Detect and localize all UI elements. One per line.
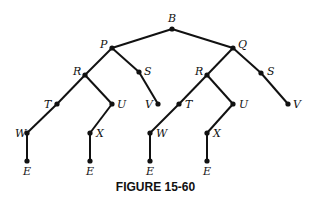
- node-label: U: [117, 98, 127, 111]
- node-label: T: [185, 98, 194, 111]
- tree-edge: [85, 48, 112, 75]
- tree-edge: [57, 75, 85, 104]
- tree-edge: [27, 104, 57, 133]
- tree-node-e: [147, 158, 152, 163]
- node-label: P: [99, 38, 108, 51]
- tree-edge: [179, 75, 207, 104]
- tree-labels: BPQRSRSTUVTUVWXWXEEEE: [15, 12, 302, 178]
- tree-node-s: [258, 70, 263, 75]
- tree-edge: [85, 75, 112, 104]
- tree-node-p: [109, 45, 114, 50]
- tree-node-e: [204, 158, 209, 163]
- tree-node-r: [82, 72, 87, 77]
- node-label: U: [239, 98, 249, 111]
- node-label: E: [22, 165, 31, 178]
- node-label: W: [15, 127, 28, 140]
- tree-node-u: [230, 101, 235, 106]
- figure-caption: FIGURE 15-60: [0, 180, 311, 194]
- tree-edge: [207, 75, 233, 104]
- tree-node-t: [54, 101, 59, 106]
- tree-node-u: [109, 101, 114, 106]
- tree-node-v: [285, 101, 290, 106]
- tree-node-r: [204, 72, 209, 77]
- tree-node-s: [136, 69, 141, 74]
- tree-edges: [27, 29, 288, 161]
- tree-node-x: [204, 130, 209, 135]
- node-label: R: [72, 65, 81, 78]
- tree-node-t: [176, 101, 181, 106]
- tree-node-w: [147, 130, 152, 135]
- tree-edge: [207, 48, 233, 75]
- tree-edge: [112, 29, 172, 48]
- node-label: V: [145, 98, 154, 111]
- node-label: W: [156, 127, 169, 140]
- tree-diagram: BPQRSRSTUVTUVWXWXEEEE: [0, 0, 311, 203]
- tree-node-b: [169, 26, 174, 31]
- tree-node-v: [155, 101, 160, 106]
- node-label: R: [194, 65, 203, 78]
- tree-node-e: [87, 158, 92, 163]
- node-label: E: [85, 165, 94, 178]
- tree-node-x: [87, 130, 92, 135]
- tree-node-e: [24, 158, 29, 163]
- node-label: V: [293, 98, 302, 111]
- tree-edge: [233, 48, 261, 73]
- node-label: Q: [238, 38, 247, 51]
- tree-edge: [112, 48, 139, 72]
- tree-edge: [172, 29, 233, 48]
- tree-node-q: [230, 45, 235, 50]
- node-label: X: [212, 127, 222, 140]
- node-label: E: [202, 165, 211, 178]
- node-label: E: [145, 165, 154, 178]
- node-label: X: [95, 127, 105, 140]
- node-label: B: [167, 12, 176, 25]
- node-label: S: [144, 65, 152, 78]
- node-label: S: [267, 65, 275, 78]
